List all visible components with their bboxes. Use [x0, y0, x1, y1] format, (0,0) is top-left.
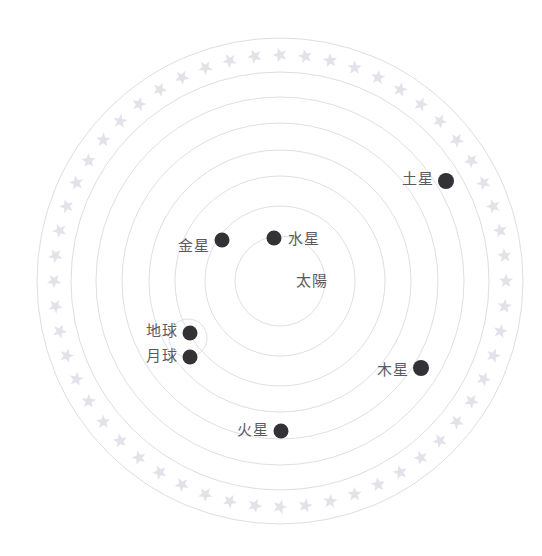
star-icon — [413, 451, 427, 465]
star-icon — [114, 114, 128, 128]
star-icon — [133, 97, 147, 111]
ring-orbit-saturn — [96, 97, 464, 465]
star-icon — [61, 348, 75, 362]
star-icon — [222, 54, 236, 68]
planet-dot-moon[interactable] — [183, 350, 198, 365]
star-icon — [47, 275, 61, 289]
star-icon — [175, 71, 189, 85]
star-icon — [499, 274, 513, 288]
star-icon — [464, 154, 478, 168]
star-icon — [153, 83, 167, 97]
star-icon — [69, 176, 83, 190]
star-icon — [152, 465, 166, 479]
star-icon — [96, 133, 110, 147]
orbit-rings-group — [37, 38, 523, 524]
star-icon — [53, 324, 67, 338]
planet-dot-venus[interactable] — [215, 233, 230, 248]
star-icon — [494, 324, 508, 338]
star-icon — [449, 416, 463, 430]
label-mercury: 水星 — [288, 232, 320, 247]
ring-outer-boundary-outer — [37, 38, 523, 524]
planet-dot-jupiter[interactable] — [413, 360, 429, 376]
star-icon — [487, 349, 501, 363]
star-icon — [198, 488, 212, 502]
solar-system-diagram: 太陽水星金星地球月球火星木星土星 — [0, 0, 542, 556]
label-mars: 火星 — [237, 423, 269, 438]
star-icon — [432, 434, 446, 448]
ring-orbit-earth — [175, 176, 385, 386]
star-icon — [132, 450, 146, 464]
star-icon — [486, 199, 500, 213]
star-icon — [81, 153, 95, 167]
star-icon — [52, 224, 66, 238]
planet-dot-saturn[interactable] — [438, 173, 454, 189]
star-ring-group — [47, 48, 513, 514]
ring-orbit-venus — [205, 206, 355, 356]
star-icon — [274, 500, 288, 514]
star-icon — [493, 223, 507, 237]
planet-dot-earth[interactable] — [183, 326, 198, 341]
star-icon — [70, 372, 84, 386]
orbit-canvas — [0, 0, 542, 556]
label-venus: 金星 — [178, 239, 210, 254]
star-icon — [497, 248, 511, 262]
star-icon — [299, 498, 313, 512]
label-saturn: 土星 — [402, 172, 434, 187]
star-icon — [498, 299, 512, 313]
label-moon: 月球 — [146, 349, 178, 364]
star-icon — [298, 49, 312, 63]
star-icon — [371, 70, 385, 84]
label-earth: 地球 — [146, 324, 178, 339]
star-icon — [323, 494, 337, 508]
star-icon — [433, 115, 447, 129]
label-sun: 太陽 — [296, 274, 328, 289]
ring-orbit-jupiter — [122, 123, 438, 439]
star-icon — [394, 82, 408, 96]
star-icon — [273, 48, 287, 62]
star-icon — [96, 414, 110, 428]
star-icon — [393, 465, 407, 479]
star-icon — [347, 487, 361, 501]
star-icon — [323, 53, 337, 67]
star-icon — [348, 60, 362, 74]
star-icon — [48, 249, 62, 263]
star-icon — [113, 433, 127, 447]
star-icon — [223, 495, 237, 509]
star-icon — [415, 97, 429, 111]
star-icon — [464, 395, 478, 409]
star-icon — [59, 199, 73, 213]
star-icon — [49, 300, 63, 314]
star-icon — [175, 478, 189, 492]
star-icon — [82, 394, 96, 408]
planet-dot-mercury[interactable] — [267, 231, 282, 246]
star-icon — [450, 134, 464, 148]
ring-orbit-mars — [149, 150, 411, 412]
label-jupiter: 木星 — [377, 363, 409, 378]
star-icon — [371, 477, 385, 491]
star-icon — [247, 50, 261, 64]
star-icon — [248, 499, 262, 513]
star-icon — [198, 62, 212, 76]
star-icon — [476, 176, 490, 190]
star-icon — [477, 372, 491, 386]
planet-dot-mars[interactable] — [274, 424, 289, 439]
